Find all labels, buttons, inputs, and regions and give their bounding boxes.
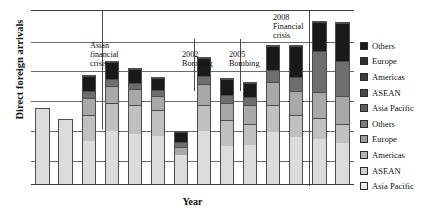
annotation-asian-financial-crisis: Asian financial crisis (90, 41, 119, 69)
bar-segment-europe (290, 77, 302, 91)
bar-segment-others (244, 83, 256, 97)
legend-item: Asia Pacific (360, 178, 436, 194)
legend-label: Asia Pacific (372, 103, 414, 113)
legend-label: Europe (372, 134, 397, 144)
bar-segment-others (336, 23, 348, 61)
annotation-financial-crisis-2008: 2008 Financial crisis (273, 13, 303, 41)
bar-segment-asean (244, 124, 256, 145)
legend-swatch-icon (360, 135, 368, 143)
bar-segment-asia-pacific (267, 132, 279, 184)
annotation-bombing-2005: 2005 Bombing (229, 50, 259, 68)
bar-segment-americas (267, 82, 279, 104)
bar-segment-asia-pacific (152, 136, 164, 184)
bar-segment-asean (313, 118, 325, 139)
legend-swatch-icon (360, 57, 368, 65)
bar-segment-asia-pacific (244, 145, 256, 184)
stacked-bar-chart: Direct foreign arrivals Asian financial … (0, 0, 436, 222)
bar (335, 22, 349, 185)
x-axis-line (31, 184, 354, 185)
bar-segment-europe (313, 51, 325, 92)
bar-segment-asia-pacific (83, 141, 95, 184)
bar-segment-americas (152, 96, 164, 110)
bar (105, 61, 119, 185)
legend-item: Europe (360, 132, 436, 148)
bar-segment-asean (336, 124, 348, 143)
legend-label: ASEAN (372, 88, 401, 98)
bar-segment-europe (152, 90, 164, 97)
legend-item: Americas (360, 147, 436, 163)
legend-item: Others (360, 38, 436, 54)
bar-segment-europe (244, 97, 256, 106)
bar-segment-americas (106, 86, 118, 103)
bar-segment-europe (336, 61, 348, 96)
bar-segment-asia-pacific (336, 143, 348, 184)
legend-swatch-icon (360, 120, 368, 128)
legend-label: Americas (372, 150, 405, 160)
bar-segment-americas (244, 105, 256, 124)
bar-segment-europe (106, 79, 118, 86)
bar-segment-americas (175, 147, 187, 155)
legend-item: Asia Pacific (360, 100, 436, 116)
bar-segment-others (175, 132, 187, 142)
y-axis-title: Direct foreign arrivals (14, 0, 25, 145)
bar-segment-americas (129, 89, 141, 104)
bar-segment-asia-pacific (290, 137, 302, 184)
bar-segment-asia-pacific (129, 134, 141, 184)
bar (35, 108, 49, 185)
bar-segment-americas (313, 92, 325, 118)
bar-segment-others (313, 22, 325, 51)
legend-label: Asia Pacific (372, 181, 414, 191)
bar (174, 131, 188, 185)
bar-segment-others (290, 46, 302, 77)
bar-segment-asia-pacific (59, 120, 71, 185)
bar (82, 75, 96, 185)
bar-segment-europe (267, 70, 279, 82)
bar-segment-asean (129, 105, 141, 134)
bar (289, 45, 303, 185)
legend-label: ASEAN (372, 166, 401, 176)
bar-segment-europe (221, 95, 233, 104)
bar-segment-asean (152, 110, 164, 136)
bar-segment-asia-pacific (221, 146, 233, 184)
bar (197, 57, 211, 185)
bar-segment-asia-pacific (175, 155, 187, 184)
bar-segment-asean (83, 115, 95, 141)
bar (128, 68, 142, 185)
legend: OthersEuropeAmericasASEANAsia PacificOth… (360, 38, 436, 194)
legend-swatch-icon (360, 42, 368, 50)
bar-segment-americas (83, 98, 95, 115)
legend-swatch-icon (360, 182, 368, 190)
x-axis-title: Year (31, 196, 354, 207)
bar-segment-others (83, 76, 95, 91)
legend-swatch-icon (360, 73, 368, 81)
bar (312, 21, 326, 186)
bar-segment-europe (83, 91, 95, 98)
legend-label: Others (372, 41, 395, 51)
bar (243, 82, 257, 185)
bar-segment-others (267, 46, 279, 70)
legend-swatch-icon (360, 104, 368, 112)
legend-item: Europe (360, 54, 436, 70)
legend-label: Others (372, 119, 395, 129)
bar-segment-others (221, 79, 233, 94)
bar-segment-americas (198, 84, 210, 105)
bar-segment-asia-pacific (198, 131, 210, 184)
bar-segment-europe (198, 76, 210, 85)
plot-area (31, 10, 354, 185)
bar-segment-asia-pacific (36, 109, 48, 184)
bar-segment-asia-pacific (106, 131, 118, 184)
bar-segment-asean (221, 120, 233, 146)
legend-label: Europe (372, 56, 397, 66)
bar-segment-asean (106, 103, 118, 131)
bar-series-group (31, 11, 354, 185)
bar-segment-americas (336, 96, 348, 124)
bar-segment-asean (267, 105, 279, 133)
bar (58, 119, 72, 186)
legend-item: ASEAN (360, 85, 436, 101)
bar (220, 78, 234, 185)
legend-label: Americas (372, 72, 405, 82)
bar-segment-asia-pacific (313, 139, 325, 184)
annotation-bombing-2002: 2002 Bombing (182, 50, 212, 68)
bar-segment-asean (198, 105, 210, 131)
bar-segment-others (129, 69, 141, 83)
